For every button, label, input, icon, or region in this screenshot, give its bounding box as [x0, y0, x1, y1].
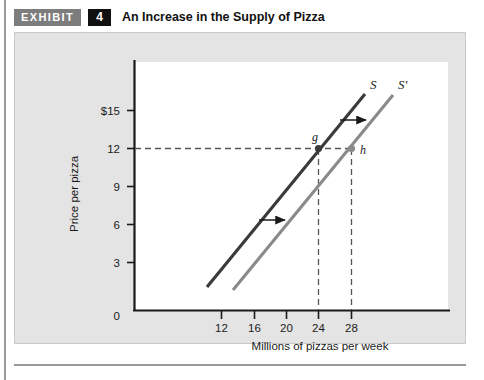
bottom-rule: [14, 364, 466, 366]
left-margin-rule: [4, 0, 6, 380]
exhibit-panel: [14, 32, 466, 344]
exhibit-badge: EXHIBIT: [14, 9, 81, 26]
exhibit-title: An Increase in the Supply of Pizza: [122, 10, 325, 24]
exhibit-header: EXHIBIT 4 An Increase in the Supply of P…: [14, 8, 325, 26]
exhibit-number-badge: 4: [88, 9, 111, 26]
